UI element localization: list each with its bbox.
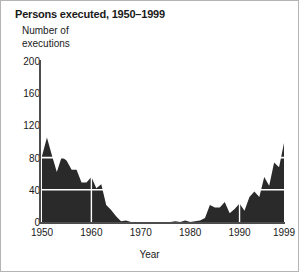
x-tick-label-1960: 1960 [80, 227, 102, 238]
x-tick-label-1970: 1970 [130, 227, 152, 238]
y-tick-label-80: 80 [0, 152, 40, 163]
area-fill [42, 137, 284, 222]
plot-area [42, 61, 284, 222]
x-tick-label-1950: 1950 [31, 227, 53, 238]
y-tick-label-200: 200 [0, 56, 40, 67]
x-axis-line [39, 222, 285, 224]
y-axis-label-line-1: Number of [22, 24, 70, 37]
x-axis-label: Year [1, 249, 298, 260]
chart-title: Persons executed, 1950–1999 [15, 8, 165, 20]
y-tick-label-40: 40 [0, 184, 40, 195]
y-axis-line [39, 60, 41, 223]
y-tick-label-160: 160 [0, 88, 40, 99]
x-tick-label-1999: 1999 [273, 227, 295, 238]
y-axis-label-line-2: executions [22, 37, 70, 50]
x-tick-label-1980: 1980 [179, 227, 201, 238]
area-series-executions [42, 61, 284, 222]
y-axis-label: Number of executions [22, 24, 70, 50]
chart-figure: Persons executed, 1950–1999 Number of ex… [0, 0, 299, 272]
y-tick-label-0: 0 [0, 217, 40, 228]
x-tick-label-1990: 1990 [228, 227, 250, 238]
y-tick-label-120: 120 [0, 120, 40, 131]
